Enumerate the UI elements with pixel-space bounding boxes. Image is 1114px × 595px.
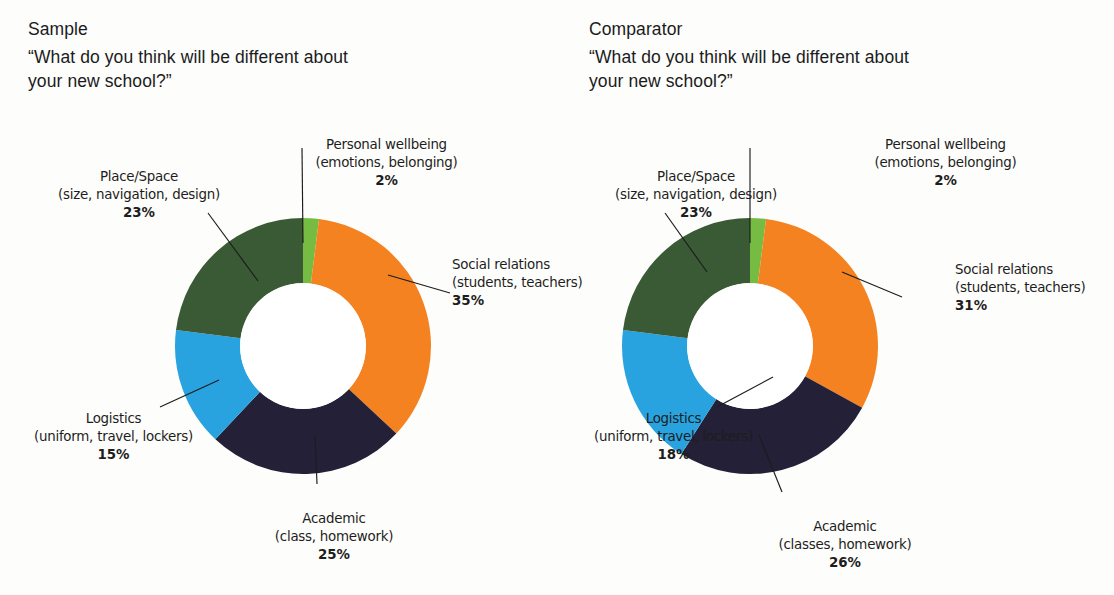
callout-pct: 26% — [745, 554, 945, 572]
callout-pct: 2% — [279, 172, 494, 190]
callout-name: Academic (class, homework) — [275, 511, 393, 544]
callout-pct: 23% — [587, 204, 805, 222]
callout-academic-sample: Academic (class, homework) 25% — [234, 492, 434, 582]
callout-pct: 15% — [6, 446, 221, 464]
figure-two-donut-charts: Sample “What do you think will be differ… — [0, 0, 1114, 595]
callout-wellbeing-comparator: Personal wellbeing (emotions, belonging)… — [838, 118, 1053, 208]
donut-hole — [240, 283, 366, 409]
callout-social-relations-comparator: Social relations (students, teachers) 31… — [955, 243, 1107, 333]
callout-name: Place/Space (size, navigation, design) — [615, 169, 777, 202]
callout-name: Personal wellbeing (emotions, belonging) — [874, 137, 1016, 170]
panel-heading-comparator: Comparator “What do you think will be di… — [589, 18, 1089, 93]
callout-name: Academic (classes, homework) — [778, 519, 911, 552]
callout-name: Social relations (students, teachers) — [955, 262, 1085, 295]
callout-academic-comparator: Academic (classes, homework) 26% — [745, 500, 945, 590]
panel-question-comparator: “What do you think will be different abo… — [589, 46, 1089, 93]
callout-name: Logistics (uniform, travel, lockers) — [594, 411, 753, 444]
callout-pct: 23% — [30, 204, 248, 222]
callout-place-space-comparator: Place/Space (size, navigation, design) 2… — [587, 150, 805, 240]
panel-title-sample: Sample — [28, 18, 528, 40]
panel-question-sample: “What do you think will be different abo… — [28, 46, 528, 93]
callout-logistics-sample: Logistics (uniform, travel, lockers) 15% — [6, 392, 221, 482]
panel-title-comparator: Comparator — [589, 18, 1089, 40]
chart-panel-comparator: Comparator “What do you think will be di… — [557, 0, 1114, 595]
panel-heading-sample: Sample “What do you think will be differ… — [28, 18, 528, 93]
callout-place-space-sample: Place/Space (size, navigation, design) 2… — [30, 150, 248, 240]
callout-pct: 2% — [838, 172, 1053, 190]
callout-pct: 18% — [566, 446, 781, 464]
callout-name: Logistics (uniform, travel, lockers) — [34, 411, 193, 444]
callout-logistics-comparator: Logistics (uniform, travel, lockers) 18% — [566, 392, 781, 482]
callout-wellbeing-sample: Personal wellbeing (emotions, belonging)… — [279, 118, 494, 208]
chart-panel-sample: Sample “What do you think will be differ… — [0, 0, 557, 595]
callout-pct: 25% — [234, 546, 434, 564]
callout-name: Place/Space (size, navigation, design) — [58, 169, 220, 202]
donut-hole — [687, 283, 813, 409]
callout-pct: 31% — [955, 297, 1107, 315]
callout-name: Personal wellbeing (emotions, belonging) — [315, 137, 457, 170]
